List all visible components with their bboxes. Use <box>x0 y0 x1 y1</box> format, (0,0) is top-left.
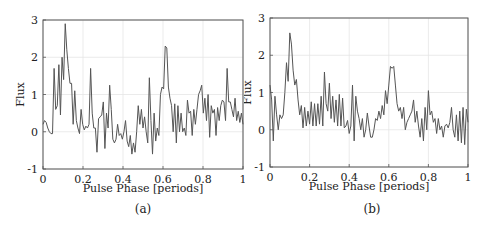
y-tick-label: -1 <box>27 163 38 176</box>
y-tick-label: 3 <box>31 14 38 27</box>
x-axis-label: Pulse Phase [periods] <box>309 180 430 193</box>
flux-series-line <box>43 24 243 154</box>
y-tick-label: 1 <box>31 89 38 102</box>
x-tick-label: 0 <box>40 173 47 186</box>
caption-a: (a) <box>123 202 163 216</box>
y-axis-label: Flux <box>14 81 27 106</box>
chart-b: 00.20.40.60.81-10123Pulse Phase [periods… <box>244 0 489 230</box>
chart-panel-a: 00.20.40.60.81-10123Pulse Phase [periods… <box>0 0 245 230</box>
y-tick-label: 3 <box>258 12 265 25</box>
x-tick-label: 1 <box>465 171 472 184</box>
flux-series-line <box>270 33 468 145</box>
y-tick-label: 0 <box>258 124 265 137</box>
caption-b: (b) <box>352 202 392 216</box>
x-tick-label: 0 <box>267 171 274 184</box>
y-tick-label: 1 <box>258 87 265 100</box>
y-tick-label: 2 <box>258 49 265 62</box>
y-tick-label: 2 <box>31 51 38 64</box>
chart-panel-b: 00.20.40.60.81-10123Pulse Phase [periods… <box>244 0 489 230</box>
y-tick-label: -1 <box>254 161 265 174</box>
y-tick-label: 0 <box>31 126 38 139</box>
x-axis-label: Pulse Phase [periods] <box>83 182 204 195</box>
chart-a: 00.20.40.60.81-10123Pulse Phase [periods… <box>0 0 245 230</box>
y-axis-label: Flux <box>244 79 254 104</box>
